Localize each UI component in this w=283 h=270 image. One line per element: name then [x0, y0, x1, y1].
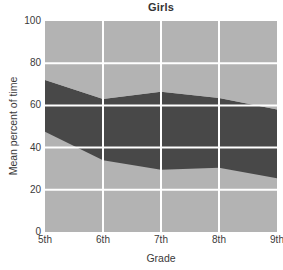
- plot-area: [45, 21, 277, 232]
- x-tick-label-6th: 6th: [83, 234, 123, 245]
- chart-figure: Girls Mean percent of time Grade 0204060…: [0, 0, 283, 270]
- x-tick-label-5th: 5th: [25, 234, 65, 245]
- x-tick-label-9th: 9th: [257, 234, 283, 245]
- stacked-area-plot: [45, 21, 277, 232]
- x-tick-label-8th: 8th: [199, 234, 239, 245]
- x-tick-label-7th: 7th: [141, 234, 181, 245]
